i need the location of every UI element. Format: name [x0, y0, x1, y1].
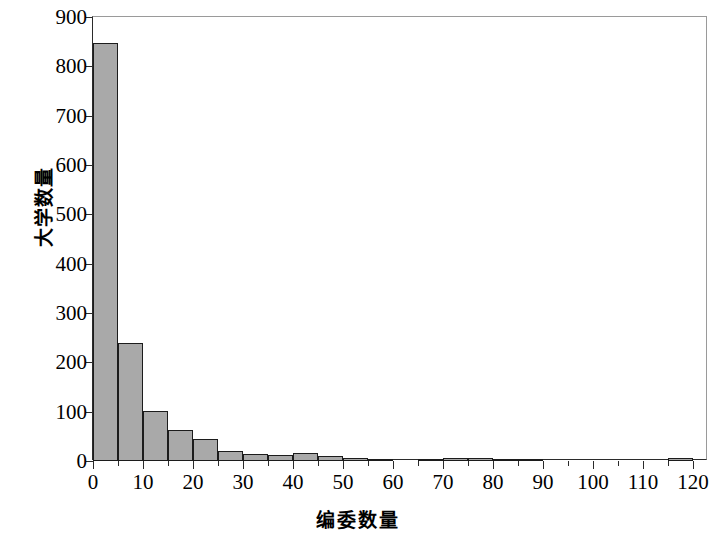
histogram-bar	[418, 459, 443, 461]
x-tick-label: 20	[183, 472, 204, 493]
x-minor-tick-mark	[568, 461, 569, 466]
x-tick-mark	[593, 461, 594, 469]
histogram-bar	[268, 455, 293, 461]
x-tick-mark	[343, 461, 344, 469]
histogram-bar	[368, 459, 393, 461]
x-tick-mark	[493, 461, 494, 469]
x-tick-label: 110	[628, 472, 659, 493]
x-minor-tick-mark	[318, 461, 319, 466]
x-tick-label: 120	[677, 472, 709, 493]
x-minor-tick-mark	[218, 461, 219, 466]
x-minor-tick-mark	[468, 461, 469, 466]
x-tick-label: 10	[133, 472, 154, 493]
x-tick-mark	[443, 461, 444, 469]
histogram-bar	[518, 459, 543, 461]
x-tick-label: 90	[533, 472, 554, 493]
histogram-bar	[243, 454, 268, 461]
histogram-bar	[493, 459, 518, 461]
histogram-bar	[118, 343, 143, 461]
x-tick-mark	[693, 461, 694, 469]
plot-area	[93, 17, 708, 461]
y-tick-mark	[86, 214, 93, 215]
x-tick-label: 30	[233, 472, 254, 493]
histogram-bar	[293, 453, 318, 461]
x-tick-mark	[193, 461, 194, 469]
x-tick-mark	[393, 461, 394, 469]
y-axis-title: 大学数量	[29, 117, 56, 297]
histogram-bar	[143, 411, 168, 461]
y-tick-label: 700	[56, 105, 88, 126]
histogram-bar	[318, 456, 343, 461]
x-tick-label: 40	[283, 472, 304, 493]
y-tick-label: 200	[56, 352, 88, 373]
y-tick-label: 100	[56, 401, 88, 422]
x-tick-label: 80	[483, 472, 504, 493]
histogram-bar	[218, 451, 243, 461]
x-axis-title: 编委数量	[0, 505, 716, 532]
x-tick-label: 60	[383, 472, 404, 493]
x-tick-mark	[93, 461, 94, 469]
plot-frame: 0100200300400500600700800900010203040506…	[92, 16, 707, 460]
y-tick-mark	[86, 412, 93, 413]
x-tick-mark	[143, 461, 144, 469]
x-minor-tick-mark	[518, 461, 519, 466]
x-tick-mark	[243, 461, 244, 469]
x-minor-tick-mark	[368, 461, 369, 466]
x-tick-label: 70	[433, 472, 454, 493]
histogram-bar	[443, 458, 468, 461]
y-tick-mark	[86, 66, 93, 67]
y-tick-label: 600	[56, 155, 88, 176]
histogram-figure: 大学数量 01002003004005006007008009000102030…	[0, 0, 716, 533]
y-tick-mark	[86, 264, 93, 265]
histogram-bar	[468, 458, 493, 461]
x-minor-tick-mark	[168, 461, 169, 466]
x-tick-label: 100	[577, 472, 609, 493]
x-minor-tick-mark	[618, 461, 619, 466]
x-tick-mark	[643, 461, 644, 469]
x-tick-label: 50	[333, 472, 354, 493]
x-minor-tick-mark	[268, 461, 269, 466]
y-tick-mark	[86, 165, 93, 166]
x-tick-label: 0	[88, 472, 99, 493]
histogram-bar	[668, 458, 693, 461]
y-tick-mark	[86, 17, 93, 18]
x-minor-tick-mark	[118, 461, 119, 466]
y-tick-mark	[86, 461, 93, 462]
y-tick-label: 300	[56, 303, 88, 324]
histogram-bar	[193, 439, 218, 461]
histogram-bar	[168, 430, 193, 461]
y-tick-label: 400	[56, 253, 88, 274]
y-tick-label: 800	[56, 56, 88, 77]
y-tick-label: 0	[77, 451, 88, 472]
histogram-bar	[93, 43, 118, 461]
y-tick-mark	[86, 116, 93, 117]
x-minor-tick-mark	[418, 461, 419, 466]
y-tick-mark	[86, 313, 93, 314]
y-tick-label: 900	[56, 7, 88, 28]
histogram-bar	[343, 458, 368, 461]
x-minor-tick-mark	[668, 461, 669, 466]
y-tick-mark	[86, 362, 93, 363]
y-tick-label: 500	[56, 204, 88, 225]
x-tick-mark	[293, 461, 294, 469]
x-tick-mark	[543, 461, 544, 469]
